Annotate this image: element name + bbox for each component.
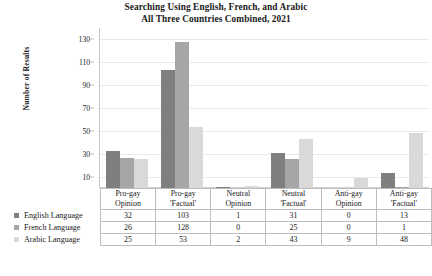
table-cell: 31 <box>266 210 321 222</box>
table-cell: 13 <box>376 210 431 222</box>
y-axis-ticks: 1301109070503010 <box>52 28 94 188</box>
legend-entry[interactable]: English Language <box>0 210 100 222</box>
bars <box>100 28 155 188</box>
column-header-line-1: Neutral <box>211 189 265 199</box>
table-cell: 0 <box>321 222 376 234</box>
y-tick-mark <box>90 62 94 63</box>
table-row: English Language32103131013 <box>0 210 432 222</box>
legend-swatch-icon <box>14 225 19 230</box>
column-header-line-1: Pro-gay <box>101 189 155 199</box>
table-cell: 2 <box>211 234 266 246</box>
chart-title-line-1: Searching Using English, French, and Ara… <box>0 2 432 14</box>
bar[interactable] <box>161 70 175 188</box>
column-header-line-1: Anti-gay <box>322 189 376 199</box>
y-tick-label: 70 <box>82 104 90 113</box>
bar-group <box>155 28 210 188</box>
table-body: English Language32103131013French Langua… <box>0 210 432 246</box>
plot-region: Number of Results 1301109070503010 <box>0 28 432 188</box>
legend-entry[interactable]: French Language <box>0 222 100 234</box>
y-tick-label: 10 <box>82 172 90 181</box>
y-tick-mark <box>90 108 94 109</box>
table-column-header: Anti-gayOpinion <box>321 189 376 210</box>
legend-swatch-icon <box>14 237 19 242</box>
y-tick-label: 110 <box>79 58 90 67</box>
table-cell: 1 <box>376 222 431 234</box>
table-cell: 103 <box>156 210 211 222</box>
column-header-line-1: Neutral <box>266 189 320 199</box>
bar-group <box>100 28 155 188</box>
y-tick-mark <box>90 130 94 131</box>
bar-group <box>264 28 319 188</box>
column-header-line-2: 'Factual' <box>266 199 320 209</box>
table-column-header: Pro-gay'Factual' <box>156 189 211 210</box>
bar[interactable] <box>134 159 148 188</box>
legend-label: French Language <box>24 222 80 233</box>
table-column-header: Pro-gayOpinion <box>100 189 155 210</box>
y-tick-mark <box>90 153 94 154</box>
y-tick-mark <box>90 176 94 177</box>
bar[interactable] <box>381 173 395 188</box>
legend-entry[interactable]: Arabic Language <box>0 234 100 246</box>
bar-group <box>210 28 265 188</box>
bar[interactable] <box>354 178 368 188</box>
column-header-line-1: Pro-gay <box>156 189 210 199</box>
bar[interactable] <box>120 158 134 188</box>
table-cell: 25 <box>266 222 321 234</box>
chart-title-line-2: All Three Countries Combined, 2021 <box>0 14 432 26</box>
table-column-header: Neutral'Factual' <box>266 189 321 210</box>
bar-group <box>374 28 429 188</box>
table-row: Arabic Language2553243948 <box>0 234 432 246</box>
bar-group <box>319 28 374 188</box>
bar[interactable] <box>409 133 423 188</box>
bars <box>374 28 429 188</box>
table-cell: 128 <box>156 222 211 234</box>
bar[interactable] <box>175 42 189 188</box>
table-cell: 32 <box>100 210 155 222</box>
bars <box>264 28 319 188</box>
table-cell: 25 <box>100 234 155 246</box>
column-header-line-2: 'Factual' <box>377 199 431 209</box>
chart-container: Searching Using English, French, and Ara… <box>0 0 432 276</box>
table-row: French Language2612802501 <box>0 222 432 234</box>
y-tick-mark <box>90 85 94 86</box>
bar[interactable] <box>271 153 285 188</box>
chart-title: Searching Using English, French, and Ara… <box>0 2 432 25</box>
data-table-wrap: Pro-gayOpinionPro-gay'Factual'NeutralOpi… <box>0 188 432 246</box>
y-tick-mark <box>90 39 94 40</box>
data-table: Pro-gayOpinionPro-gay'Factual'NeutralOpi… <box>0 188 432 246</box>
table-column-header: Anti-gay'Factual' <box>376 189 431 210</box>
bar[interactable] <box>299 139 313 188</box>
table-cell: 48 <box>376 234 431 246</box>
bar[interactable] <box>189 127 203 188</box>
legend-label: English Language <box>24 210 83 221</box>
bar[interactable] <box>106 151 120 188</box>
y-tick-label: 30 <box>82 149 90 158</box>
table-cell: 9 <box>321 234 376 246</box>
bars <box>155 28 210 188</box>
table-column-header: NeutralOpinion <box>211 189 266 210</box>
column-header-line-2: Opinion <box>322 199 376 209</box>
column-header-line-2: Opinion <box>101 199 155 209</box>
bars <box>319 28 374 188</box>
bar[interactable] <box>285 159 299 188</box>
column-header-line-2: 'Factual' <box>156 199 210 209</box>
table-cell: 0 <box>211 222 266 234</box>
legend-label: Arabic Language <box>24 234 80 245</box>
legend-swatch-icon <box>14 213 19 218</box>
y-axis-title: Number of Results <box>22 24 31 134</box>
table-cell: 43 <box>266 234 321 246</box>
table-cell: 26 <box>100 222 155 234</box>
table-cell: 0 <box>321 210 376 222</box>
plot-area <box>99 28 429 188</box>
y-tick-label: 90 <box>82 81 90 90</box>
bar-groups <box>100 28 429 188</box>
table-corner-cell <box>0 189 100 210</box>
y-tick-label: 130 <box>79 35 90 44</box>
table-header-row: Pro-gayOpinionPro-gay'Factual'NeutralOpi… <box>0 189 432 210</box>
table-cell: 1 <box>211 210 266 222</box>
bars <box>210 28 265 188</box>
table-cell: 53 <box>156 234 211 246</box>
column-header-line-1: Anti-gay <box>377 189 431 199</box>
y-tick-label: 50 <box>82 126 90 135</box>
column-header-line-2: Opinion <box>211 199 265 209</box>
